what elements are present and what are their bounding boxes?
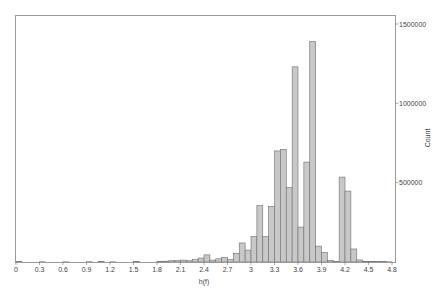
histogram-bar xyxy=(357,260,363,262)
y-tick-label: 1000000 xyxy=(399,100,426,107)
histogram-bar xyxy=(351,249,357,262)
histogram-bar xyxy=(198,258,204,262)
histogram-bar xyxy=(228,260,234,262)
histogram-bar xyxy=(222,257,228,262)
x-tick-label: 3 xyxy=(249,266,253,273)
histogram-bar xyxy=(251,237,257,262)
histogram-bars xyxy=(16,41,396,262)
x-tick-label: 3.9 xyxy=(317,266,327,273)
x-tick-label: 4.5 xyxy=(364,266,374,273)
x-tick-label: 0.9 xyxy=(82,266,92,273)
x-tick-label: 1.2 xyxy=(105,266,115,273)
histogram-bar xyxy=(210,260,216,262)
x-tick-label: 2.4 xyxy=(199,266,209,273)
histogram-bar xyxy=(298,227,304,262)
histogram-bar xyxy=(181,260,187,262)
histogram-bar xyxy=(363,261,369,262)
histogram-bar xyxy=(204,255,210,262)
histogram-bar xyxy=(186,261,192,262)
histogram-bar xyxy=(239,243,245,262)
histogram-bar xyxy=(345,191,351,262)
x-tick-label: 0.3 xyxy=(35,266,45,273)
histogram-bar xyxy=(275,151,281,262)
histogram-bar xyxy=(263,237,269,262)
histogram-bar xyxy=(322,252,328,262)
x-tick-label: 1.5 xyxy=(129,266,139,273)
x-tick-label: 4.8 xyxy=(387,266,397,273)
histogram-bar xyxy=(286,187,292,262)
histogram-bar xyxy=(339,177,345,262)
x-axis-ticks: 00.30.60.91.21.51.82.12.42.733.33.63.94.… xyxy=(14,262,397,273)
histogram-bar xyxy=(175,261,181,262)
histogram-bar xyxy=(245,250,251,262)
histogram-bar xyxy=(216,259,222,262)
y-tick-label: 1500000 xyxy=(399,21,426,28)
x-tick-label: 3.3 xyxy=(270,266,280,273)
x-tick-label: 4.2 xyxy=(340,266,350,273)
histogram-bar xyxy=(169,261,175,262)
y-tick-label: 500000 xyxy=(399,179,422,186)
histogram-bar xyxy=(310,41,316,262)
plot-frame xyxy=(16,16,396,263)
x-tick-label: 1.8 xyxy=(152,266,162,273)
x-tick-label: 0.6 xyxy=(58,266,68,273)
histogram-bar xyxy=(233,253,239,262)
histogram-bar xyxy=(269,206,275,262)
x-tick-label: 3.6 xyxy=(293,266,303,273)
histogram-bar xyxy=(280,149,286,262)
x-tick-label: 0 xyxy=(14,266,18,273)
histogram-bar xyxy=(327,260,333,262)
y-axis-ticks: 50000010000001500000 xyxy=(396,21,427,187)
histogram-bar xyxy=(316,246,322,262)
histogram-bar xyxy=(304,162,310,262)
y-axis-label: Count xyxy=(424,129,431,148)
histogram-bar xyxy=(163,261,169,262)
x-tick-label: 2.7 xyxy=(223,266,233,273)
x-tick-label: 2.1 xyxy=(176,266,186,273)
histogram-bar xyxy=(292,67,298,262)
histogram-chart: 00.30.60.91.21.51.82.12.42.733.33.63.94.… xyxy=(0,0,445,294)
histogram-bar xyxy=(257,206,263,262)
x-axis-label: h(f) xyxy=(199,278,210,286)
histogram-bar xyxy=(192,260,198,262)
